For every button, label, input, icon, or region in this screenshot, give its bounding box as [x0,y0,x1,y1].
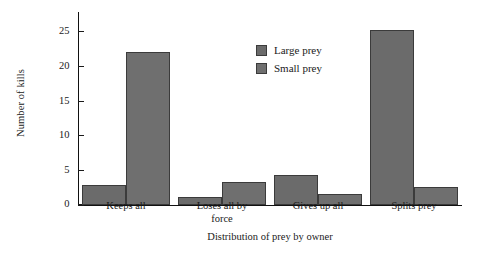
legend-swatch [256,45,267,56]
y-tick-label: 5 [40,165,70,176]
x-tick-label: Gives up all [270,200,366,213]
y-tick: 15 [78,101,84,102]
x-tick-label-line: Gives up all [270,200,366,213]
chart-legend: Large preySmall prey [256,42,322,78]
x-tick-label-line: Keeps all [78,200,174,213]
y-axis-line [78,12,79,206]
legend-label: Large prey [274,45,322,56]
y-tick: 10 [78,135,84,136]
bar [126,52,170,205]
x-tick-label-line: Splits prey [366,200,462,213]
y-tick-label: 20 [40,61,70,72]
legend-item: Large prey [256,42,322,58]
y-tick: 20 [78,66,84,67]
x-tick-label: Splits prey [366,200,462,213]
y-tick: 5 [78,170,84,171]
y-tick-label: 10 [40,130,70,141]
x-tick-label: Loses all byforce [174,200,270,225]
y-tick-label: 25 [40,26,70,37]
legend-swatch [256,63,267,74]
x-tick-label-line: force [174,213,270,226]
legend-label: Small prey [274,63,322,74]
y-tick-label: 0 [40,199,70,210]
x-axis-title: Distribution of prey by owner [78,232,462,243]
y-tick-label: 15 [40,96,70,107]
legend-item: Small prey [256,60,322,76]
y-tick: 25 [78,31,84,32]
y-axis-title: Number of kills [12,0,30,206]
bar-chart: Number of kills 0510152025 Keeps allLose… [0,0,479,254]
x-tick-label: Keeps all [78,200,174,213]
bar [370,30,414,205]
x-tick-label-line: Loses all by [174,200,270,213]
